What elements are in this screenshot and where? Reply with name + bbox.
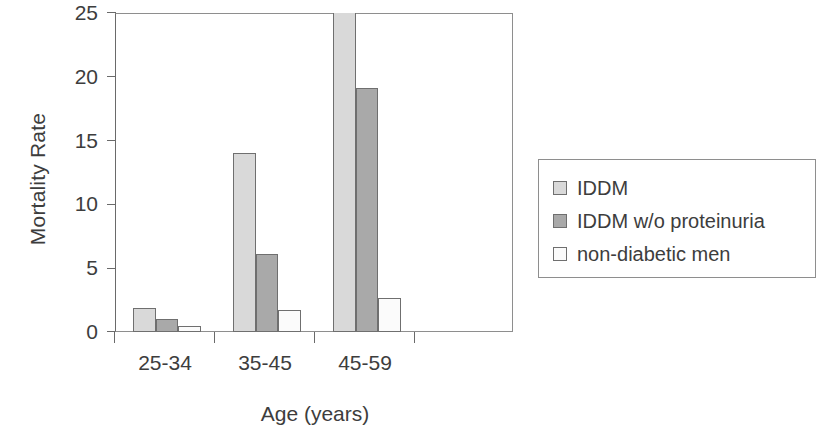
y-axis-tick-label: 25	[38, 2, 98, 23]
legend-swatch-iddm	[553, 181, 567, 195]
y-axis-tick-label: 0	[38, 321, 98, 342]
x-axis-tick	[314, 332, 315, 343]
plot-area	[115, 13, 513, 332]
legend-swatch-iddm-wo-proteinuria	[553, 214, 567, 228]
y-axis-tick-label: 20	[38, 66, 98, 87]
x-axis-tick-label: 45-59	[305, 352, 425, 373]
y-axis-tick-label: 5	[38, 257, 98, 278]
legend-item[interactable]: IDDM	[553, 171, 815, 204]
x-axis-tick	[414, 332, 415, 343]
legend-label: non-diabetic men	[577, 244, 730, 264]
legend-label: IDDM	[577, 178, 628, 198]
y-axis-tick-label: 15	[38, 130, 98, 151]
legend-swatch-non-diabetic-men	[553, 247, 567, 261]
legend-label: IDDM w/o proteinuria	[577, 211, 765, 231]
chart-legend: IDDM IDDM w/o proteinuria non-diabetic m…	[538, 159, 816, 278]
legend-item[interactable]: non-diabetic men	[553, 237, 815, 270]
x-axis-tick	[214, 332, 215, 343]
x-axis-tick	[114, 332, 115, 343]
x-axis-title: Age (years)	[195, 402, 435, 426]
y-axis-tick-label: 10	[38, 193, 98, 214]
legend-item[interactable]: IDDM w/o proteinuria	[553, 204, 815, 237]
